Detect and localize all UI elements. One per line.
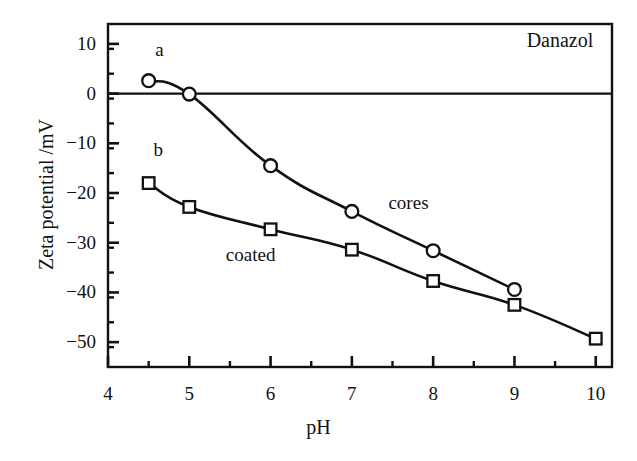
x-tick-label: 8 (403, 384, 463, 403)
marker-square-coated-0 (143, 177, 155, 189)
marker-square-coated-3 (346, 244, 358, 256)
y-axis-title-wrapper: Zeta potential /mV (35, 65, 58, 325)
annotation-b: b (154, 140, 164, 159)
plot-frame-rect (108, 24, 612, 367)
annotation-a: a (155, 40, 163, 59)
series-line-coated (149, 183, 596, 339)
y-tick-label: 10 (30, 34, 96, 53)
marker-circle-cores-4 (427, 244, 440, 257)
marker-circle-cores-5 (508, 283, 521, 296)
x-tick-label: 5 (159, 384, 219, 403)
y-axis-title: Zeta potential /mV (35, 119, 57, 270)
data-series-paths (149, 81, 596, 339)
x-tick-label: 6 (241, 384, 301, 403)
marker-circle-cores-1 (183, 88, 196, 101)
marker-square-coated-4 (427, 275, 439, 287)
data-point-markers (142, 74, 601, 344)
marker-square-coated-2 (265, 224, 277, 236)
x-tick-label: 10 (566, 384, 626, 403)
x-tick-label: 9 (484, 384, 544, 403)
marker-circle-cores-3 (345, 205, 358, 218)
marker-square-coated-6 (590, 333, 602, 345)
series-line-cores (149, 81, 515, 290)
marker-circle-cores-0 (142, 74, 155, 87)
annotation-coated: coated (226, 245, 276, 264)
marker-circle-cores-2 (264, 159, 277, 172)
x-tick-label: 7 (322, 384, 382, 403)
marker-square-coated-5 (509, 299, 521, 311)
x-tick-label: 4 (78, 384, 138, 403)
annotation-cores: cores (388, 193, 428, 212)
y-tick-label: −50 (30, 332, 96, 351)
plot-frame (108, 24, 612, 367)
marker-square-coated-1 (183, 201, 195, 213)
zeta-potential-chart-figure: 45678910 100−10−20−30−40−50 abcorescoate… (0, 0, 637, 461)
chart-corner-title: Danazol (527, 30, 594, 50)
x-axis-title: pH (0, 417, 637, 437)
